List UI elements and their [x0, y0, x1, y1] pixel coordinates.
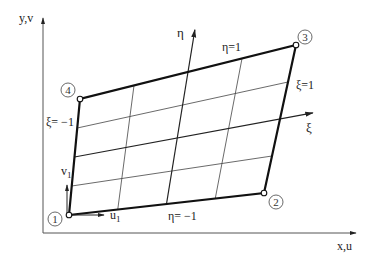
eta-axis [167, 30, 195, 204]
node-2-marker [261, 190, 267, 196]
node-4-marker [77, 96, 83, 102]
element-mesh [72, 59, 288, 210]
node-label-3: 3 [298, 30, 312, 44]
node-label-1: 1 [48, 212, 62, 226]
svg-text:4: 4 [65, 84, 71, 96]
svg-text:3: 3 [302, 31, 308, 43]
node-label-2: 2 [269, 195, 283, 209]
xi-right-label: ξ=1 [296, 78, 314, 92]
y-axis-label: y,v [19, 11, 33, 25]
eta-axis-label: η [177, 25, 184, 40]
node-label-4: 4 [61, 83, 75, 97]
v1-label: v1 [61, 164, 72, 180]
node-1-marker [66, 212, 72, 218]
svg-text:1: 1 [52, 213, 58, 225]
xi-left-label: ξ= −1 [46, 115, 74, 129]
xi-axis-label: ξ [306, 120, 312, 135]
nodes [66, 42, 299, 218]
eta-bottom-label: η= −1 [168, 209, 197, 223]
svg-text:2: 2 [273, 196, 279, 208]
x-axis-label: x,u [337, 239, 352, 253]
eta-top-label: η=1 [222, 40, 241, 54]
node-3-marker [293, 42, 299, 48]
element-diagram: y,v x,u η ξ η=1 η= −1 ξ=1 ξ= −1 u1 v1 1 … [0, 0, 372, 263]
element-boundary [69, 45, 296, 215]
